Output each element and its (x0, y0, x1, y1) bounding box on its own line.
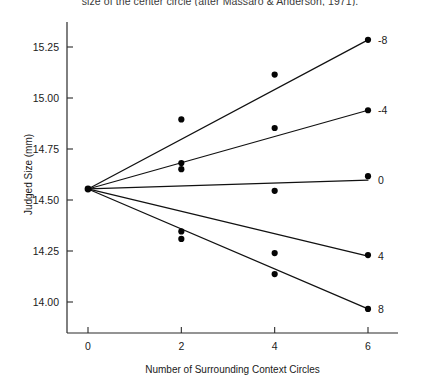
data-point (178, 166, 184, 172)
series-fit-line (88, 180, 368, 189)
series-label: 8 (378, 303, 384, 315)
x-axis-tick-label: 0 (85, 340, 91, 352)
series-label: -8 (378, 34, 387, 46)
data-point-origin (85, 186, 92, 193)
data-point (178, 236, 184, 242)
data-point (178, 228, 184, 234)
data-point (272, 71, 278, 77)
series-fit-line (88, 110, 368, 189)
series-fit-line (88, 40, 368, 189)
series-label: 0 (378, 174, 384, 186)
series-label: -4 (378, 104, 387, 116)
data-point (272, 188, 278, 194)
data-point (365, 173, 371, 179)
data-point (272, 250, 278, 256)
series-labels: -8-4048 (378, 34, 387, 315)
y-axis-tick-label: 14.50 (33, 194, 59, 206)
data-point (365, 37, 371, 43)
data-point (272, 125, 278, 131)
y-axis-tick-label: 14.25 (33, 245, 59, 257)
series-label: 4 (378, 250, 384, 262)
series-lines (88, 40, 368, 309)
data-point (365, 252, 371, 258)
data-point (365, 306, 371, 312)
x-axis-title: Number of Surrounding Context Circles (145, 364, 320, 375)
y-axis-tick-label: 14.00 (33, 296, 59, 308)
x-axis-tick-label: 6 (365, 340, 371, 352)
y-axis-title: Judged Size (mm) (23, 134, 34, 215)
data-point (178, 116, 184, 122)
series-dots (85, 37, 372, 312)
series-fit-line (88, 189, 368, 309)
x-axis-tick-label: 4 (272, 340, 278, 352)
figure-container: size of the center circle (after Massaro… (0, 0, 440, 385)
data-point (272, 271, 278, 277)
scatter-plot: 14.0014.2514.5014.7515.0015.250246 -8-40… (0, 0, 440, 385)
data-point (365, 107, 371, 113)
y-axis-tick-label: 14.75 (33, 143, 59, 155)
y-axis-tick-label: 15.25 (33, 41, 59, 53)
data-point (178, 160, 184, 166)
y-axis-tick-label: 15.00 (33, 92, 59, 104)
x-axis-tick-label: 2 (178, 340, 184, 352)
series-fit-line (88, 189, 368, 256)
